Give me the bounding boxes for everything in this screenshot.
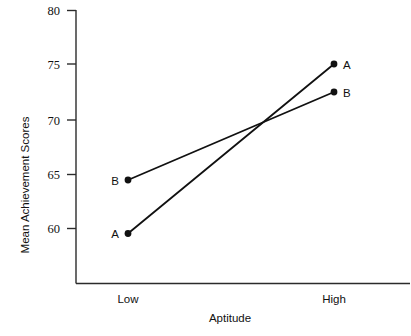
series-label-b-high: B bbox=[343, 87, 351, 99]
data-point-a-high bbox=[331, 61, 338, 68]
y-tick-label-70: 70 bbox=[48, 114, 61, 128]
series-line-a bbox=[128, 64, 334, 234]
series-line-b bbox=[128, 92, 334, 180]
x-tick-label-high: High bbox=[322, 293, 346, 305]
x-axis-title: Aptitude bbox=[209, 312, 251, 324]
series-label-a-high: A bbox=[343, 59, 351, 71]
y-tick-label-60: 60 bbox=[48, 222, 61, 236]
series-label-a-low: A bbox=[111, 228, 119, 240]
data-point-b-high bbox=[331, 89, 338, 96]
y-tick-label-65: 65 bbox=[48, 168, 61, 182]
line-chart: 80 75 70 65 60 Mean Achievement Scores L… bbox=[0, 0, 411, 336]
series-label-b-low: B bbox=[111, 175, 119, 187]
y-tick-label-80: 80 bbox=[48, 4, 61, 18]
y-tick-label-75: 75 bbox=[48, 58, 61, 72]
data-point-a-low bbox=[125, 230, 132, 237]
y-axis-title: Mean Achievement Scores bbox=[19, 116, 31, 253]
x-tick-label-low: Low bbox=[117, 293, 139, 305]
chart-canvas: 80 75 70 65 60 Mean Achievement Scores L… bbox=[0, 0, 411, 336]
data-point-b-low bbox=[125, 177, 132, 184]
